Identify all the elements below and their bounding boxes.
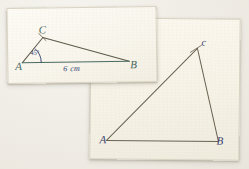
angle-arc-icon xyxy=(35,49,41,63)
triangle-side-ab xyxy=(22,61,129,62)
triangle-card-given[interactable]: A C B 45° 6 cm xyxy=(6,6,157,84)
triangle-side-cb xyxy=(43,36,129,62)
triangle-side-ac xyxy=(22,38,43,63)
triangle-side-ab xyxy=(106,140,218,141)
construction-tick-icon xyxy=(190,45,201,52)
construction-tick-icon xyxy=(39,34,46,41)
triangle-side-cb xyxy=(196,48,219,141)
photo-scene: A c B A C B 45° 6 cm xyxy=(0,0,249,169)
triangle-drawing-left xyxy=(7,7,156,83)
